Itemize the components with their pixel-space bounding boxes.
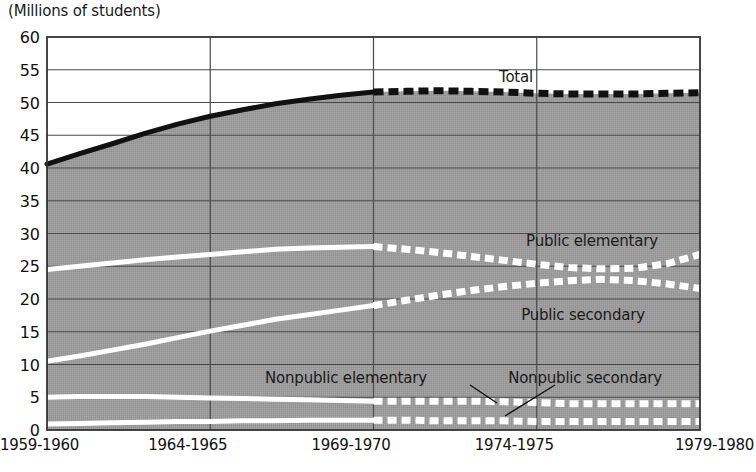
y-axis-unit-label: (Millions of students) <box>8 2 161 20</box>
y-axis-tick-55: 55 <box>0 60 40 79</box>
y-axis-tick-35: 35 <box>0 191 40 210</box>
series-label-public-secondary: Public secondary <box>521 306 645 324</box>
series-label-nonpublic-secondary: Nonpublic secondary <box>508 369 662 387</box>
x-axis-tick-1969-1970: 1969-1970 <box>312 436 391 454</box>
y-axis-tick-30: 30 <box>0 224 40 243</box>
y-axis-tick-40: 40 <box>0 159 40 178</box>
series-label-nonpublic-elementary: Nonpublic elementary <box>265 369 427 387</box>
y-axis-tick-15: 15 <box>0 322 40 341</box>
y-axis-tick-5: 5 <box>0 388 40 407</box>
x-axis-tick-1964-1965: 1964-1965 <box>148 436 227 454</box>
y-axis-tick-20: 20 <box>0 290 40 309</box>
series-label-total: Total <box>499 68 533 86</box>
y-axis-tick-45: 45 <box>0 126 40 145</box>
x-axis-tick-1959-1960: 1959-1960 <box>0 436 79 454</box>
x-axis-tick-1974-1975: 1974-1975 <box>475 436 554 454</box>
chart-figure: (Millions of students) 60555045403530252… <box>0 0 756 472</box>
y-axis-tick-60: 60 <box>0 28 40 47</box>
y-axis-tick-50: 50 <box>0 93 40 112</box>
series-label-public-elementary: Public elementary <box>526 232 658 250</box>
y-axis-tick-25: 25 <box>0 257 40 276</box>
y-axis-tick-10: 10 <box>0 355 40 374</box>
x-axis-tick-1979-1980: 1979-1980 <box>675 436 754 454</box>
